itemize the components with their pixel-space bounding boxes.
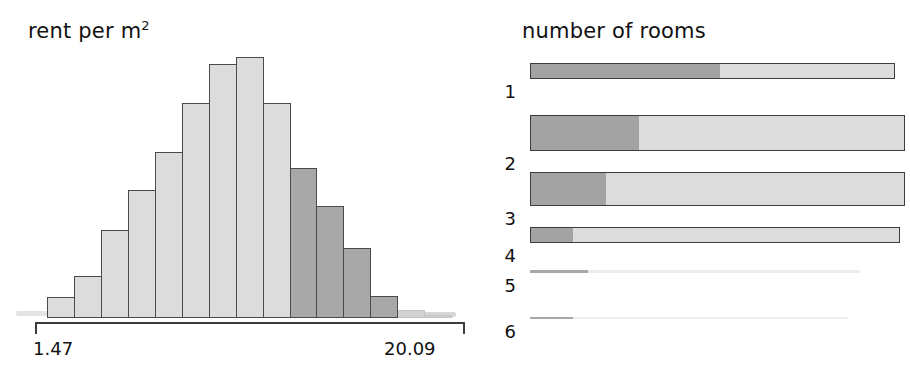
rooms-bar-4[interactable] — [530, 227, 900, 243]
rooms-bar-6[interactable] — [530, 317, 848, 319]
x-axis-min-label: 1.47 — [33, 338, 73, 359]
histogram-bar — [289, 168, 317, 318]
rooms-bar-dark-segment — [531, 116, 639, 150]
histogram-bar — [370, 296, 398, 318]
rent-per-m2-plot-area — [47, 57, 451, 318]
histogram-bar — [209, 64, 237, 318]
histogram-bar — [182, 103, 210, 318]
histogram-bar — [236, 57, 264, 318]
histogram-bar — [74, 276, 102, 318]
rent-per-m2-title: rent per m2 — [28, 19, 150, 43]
rent-per-m2-x-axis — [35, 322, 465, 334]
x-axis-max-label: 20.09 — [384, 338, 436, 359]
rooms-bar-dark-segment — [531, 173, 606, 205]
histogram-bar — [343, 248, 371, 318]
rooms-bar-5[interactable] — [530, 270, 860, 273]
rooms-bar-3[interactable] — [530, 172, 905, 206]
histogram-bar — [397, 310, 425, 318]
rooms-axis-label-6: 6 — [500, 321, 516, 342]
histogram-bar — [424, 315, 452, 318]
rooms-axis-label-4: 4 — [500, 245, 516, 266]
rent-per-m2-chart-panel: rent per m2 1.47 20.09 — [0, 0, 470, 379]
baseline-smudge-left — [16, 311, 51, 316]
histogram-bar — [47, 297, 75, 318]
rooms-bar-dark-segment — [531, 64, 720, 78]
rent-per-m2-title-text: rent per m — [28, 19, 141, 43]
rooms-axis-label-1: 1 — [500, 81, 516, 102]
histogram-bar — [101, 230, 129, 318]
rooms-bar-1[interactable] — [530, 63, 895, 79]
histogram-bar — [155, 152, 183, 318]
rooms-axis-label-5: 5 — [500, 275, 516, 296]
histogram-bar — [316, 206, 344, 318]
rooms-bar-dark-segment — [530, 317, 573, 319]
rent-per-m2-title-superscript: 2 — [141, 18, 149, 33]
rooms-bar-dark-segment — [531, 228, 573, 242]
rooms-axis-label-3: 3 — [500, 208, 516, 229]
rooms-axis-label-2: 2 — [500, 153, 516, 174]
rooms-bar-dark-segment — [530, 270, 588, 273]
histogram-bar — [262, 103, 290, 318]
number-of-rooms-chart-panel: number of rooms 123456 — [470, 0, 910, 379]
histogram-bar — [128, 190, 156, 318]
rooms-bar-2[interactable] — [530, 115, 905, 151]
number-of-rooms-plot-area: 123456 — [470, 0, 910, 379]
